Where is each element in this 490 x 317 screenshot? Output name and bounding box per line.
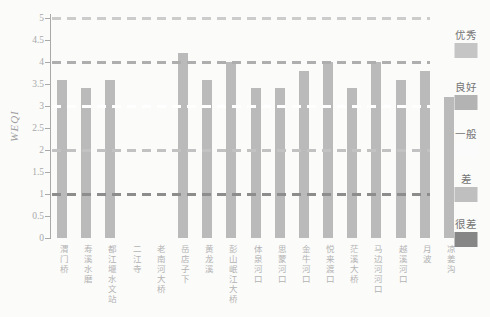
x-axis-label: 金牛河口 [298,245,310,285]
legend-label-poor: 差 [444,171,488,186]
legend-swatch-average [455,142,478,157]
gridline-good [52,61,430,64]
bar [420,71,430,238]
y-tick-mark [45,128,50,129]
y-tick-mark [45,40,50,41]
y-tick-label: 3.5 [6,78,44,90]
y-tick-mark [45,18,50,19]
y-tick-mark [45,172,50,173]
legend-label-very-poor: 很差 [444,216,488,231]
x-axis-label: 老南河大桥 [153,245,165,295]
x-axis-label: 马边河河口 [370,245,382,295]
bar [57,80,67,238]
y-tick-label: 2.5 [6,122,44,134]
x-axis-label: 越溪河口 [395,245,407,285]
weqi-bar-chart: WEQI 00.511.522.533.544.55渭门桥寿溪水磨都江堰水文站二… [0,0,490,317]
y-tick-mark [45,84,50,85]
bar [275,88,285,238]
y-tick-label: 4.5 [6,34,44,46]
legend: 优秀良好一般差很差 [444,0,488,317]
bar [251,88,261,238]
y-tick-mark [45,238,50,239]
y-tick-label: 5 [6,12,44,24]
legend-label-average: 一般 [444,126,488,141]
y-tick-label: 0 [6,232,44,244]
bar [105,80,115,238]
bar [396,80,406,238]
x-axis-label: 彭山岷江大桥 [225,245,237,305]
legend-swatch-poor [455,187,478,202]
x-axis-label: 体泉河口 [250,245,262,285]
x-axis-label: 黄龙溪 [201,245,213,275]
x-axis-label: 悦来渡口 [322,245,334,285]
y-tick-label: 4 [6,56,44,68]
legend-swatch-good [455,95,478,110]
y-tick-label: 1 [6,188,44,200]
bar [347,88,357,238]
y-tick-label: 3 [6,100,44,112]
gridline-average [52,105,430,108]
gridline-very-poor [52,193,430,196]
x-axis-label: 岳店子下 [177,245,189,285]
bar [81,88,91,238]
x-axis-label: 思蒙河口 [274,245,286,285]
bar [178,53,188,238]
y-axis-line [50,14,51,239]
y-tick-mark [45,194,50,195]
x-axis-label: 月波 [419,245,431,265]
legend-label-good: 良好 [444,79,488,94]
legend-swatch-very-poor [455,232,478,247]
gridline-poor [52,149,430,152]
legend-label-excellent: 优秀 [444,27,488,42]
bar [299,71,309,238]
y-tick-mark [45,62,50,63]
x-axis-label: 渭门桥 [56,245,68,275]
bar [202,80,212,238]
legend-swatch-excellent [455,43,478,58]
x-axis-label: 寿溪水磨 [80,245,92,285]
y-tick-label: 2 [6,144,44,156]
gridline-excellent [52,17,430,20]
x-axis-label: 二江寺 [129,245,141,275]
y-tick-mark [45,150,50,151]
y-tick-mark [45,106,50,107]
y-tick-label: 1.5 [6,166,44,178]
x-axis-label: 茫溪大桥 [346,245,358,285]
x-axis-label: 都江堰水文站 [104,245,116,305]
y-tick-mark [45,216,50,217]
y-tick-label: 0.5 [6,210,44,222]
